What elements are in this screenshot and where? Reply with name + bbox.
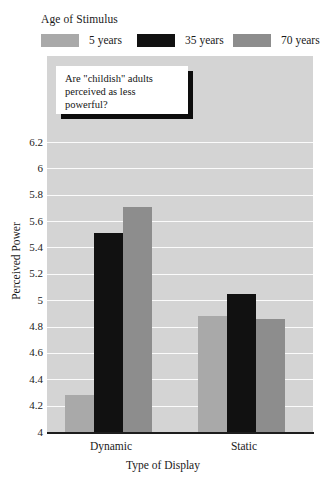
bar-static-70-years[interactable]	[256, 319, 285, 432]
bar-dynamic-5-years[interactable]	[65, 395, 94, 432]
y-tick-5: 5	[1, 295, 43, 306]
bar-dynamic-35-years[interactable]	[94, 233, 123, 432]
bar-chart-figure: Age of Stimulus 5 years 35 years 70 year…	[0, 0, 326, 483]
bar-static-35-years[interactable]	[227, 294, 256, 432]
gridline-5.4	[47, 247, 313, 248]
y-axis-title: Perceived Power	[10, 201, 22, 321]
legend-title: Age of Stimulus	[41, 13, 118, 25]
callout-text: Are "childish" adults perceived as less …	[65, 72, 180, 112]
legend: 5 years 35 years 70 years	[41, 33, 316, 49]
gridline-6.2	[47, 142, 313, 143]
y-tick-5.4: 5.4	[1, 242, 43, 253]
legend-swatch-70-years	[233, 34, 271, 47]
y-tick-4.6: 4.6	[1, 347, 43, 358]
x-axis-line	[47, 432, 314, 434]
y-tick-4.8: 4.8	[1, 321, 43, 332]
x-axis-title: Type of Display	[0, 459, 326, 471]
y-tick-5.2: 5.2	[1, 268, 43, 279]
gridline-5	[47, 300, 313, 301]
x-axis-tick-dynamic: Dynamic	[61, 440, 161, 452]
x-axis-tick-static: Static	[194, 440, 294, 452]
y-tick-4: 4	[1, 427, 43, 438]
callout-box: Are "childish" adults perceived as less …	[56, 66, 188, 114]
y-tick-5.6: 5.6	[1, 216, 43, 227]
callout-annotation: Are "childish" adults perceived as less …	[56, 66, 188, 114]
y-tick-4.4: 4.4	[1, 374, 43, 385]
legend-swatch-5-years	[41, 34, 79, 47]
legend-swatch-35-years	[137, 34, 175, 47]
gridline-5.6	[47, 221, 313, 222]
gridline-5.2	[47, 274, 313, 275]
legend-label-35-years: 35 years	[185, 33, 224, 48]
y-tick-6: 6	[1, 163, 43, 174]
y-tick-4.2: 4.2	[1, 400, 43, 411]
gridline-6	[47, 168, 313, 169]
gridline-5.8	[47, 195, 313, 196]
bar-dynamic-70-years[interactable]	[123, 207, 152, 432]
y-tick-6.2: 6.2	[1, 137, 43, 148]
bar-static-5-years[interactable]	[198, 316, 227, 432]
legend-label-5-years: 5 years	[89, 33, 122, 48]
legend-label-70-years: 70 years	[281, 33, 320, 48]
y-tick-5.8: 5.8	[1, 189, 43, 200]
